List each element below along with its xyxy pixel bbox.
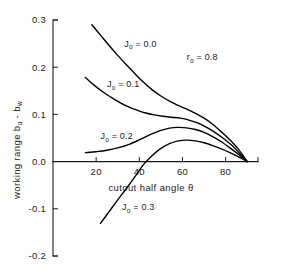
- x-tick-label: 20: [91, 166, 102, 177]
- x-tick-label: 80: [220, 166, 231, 177]
- annotation-0: ro = 0.8: [187, 52, 218, 63]
- x-axis: 20406080: [53, 157, 258, 177]
- chart-canvas: -0.2-0.10.00.10.20.3 20406080 Jo = 0.0Jo…: [0, 0, 288, 275]
- curve-label-1: Jo = 0.1: [107, 79, 139, 90]
- x-axis-title: cutout half angle θ: [108, 182, 193, 193]
- curve-label-0: Jo = 0.0: [124, 39, 157, 50]
- curve-label-3: Jo = 0.3: [122, 202, 155, 213]
- y-tick-label: -0.2: [28, 250, 46, 261]
- x-axis-title-text: cutout half angle θ: [108, 182, 193, 193]
- y-tick-label: 0.1: [32, 109, 46, 120]
- y-axis-title: working range bu - bw: [11, 101, 23, 200]
- x-tick-label: 60: [177, 166, 188, 177]
- figure-chart: -0.2-0.10.00.10.20.3 20406080 Jo = 0.0Jo…: [0, 0, 288, 275]
- y-axis-title-text: working range bu - bw: [11, 101, 23, 200]
- y-tick-label-group: -0.2-0.10.00.10.20.3: [28, 14, 46, 261]
- x-tick-group: [96, 157, 258, 162]
- y-tick-label: 0.3: [32, 14, 46, 25]
- y-axis: -0.2-0.10.00.10.20.3: [28, 14, 58, 261]
- y-tick-label: 0.0: [32, 156, 46, 167]
- annotation-group: ro = 0.8: [187, 52, 218, 63]
- x-tick-label-group: 20406080: [91, 166, 232, 177]
- y-tick-label: -0.1: [28, 203, 46, 214]
- curve-label-2: Jo = 0.2: [100, 131, 133, 142]
- y-tick-group: [53, 20, 58, 256]
- y-tick-label: 0.2: [32, 62, 46, 73]
- data-curves: [85, 25, 247, 224]
